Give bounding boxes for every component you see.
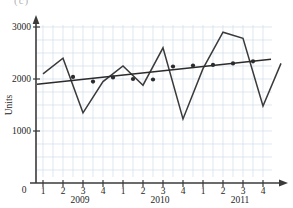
quarter-tick-label: 4 xyxy=(261,186,266,196)
quarter-tick-label: 1 xyxy=(41,186,46,196)
y-tick-label-2000: 2000 xyxy=(12,74,31,84)
quarter-tick-label: 1 xyxy=(201,186,206,196)
quarter-tick-label: 2 xyxy=(61,186,66,196)
scatter-dot xyxy=(91,80,95,84)
quarter-tick-label: 4 xyxy=(101,186,106,196)
y-tick-label-3000: 3000 xyxy=(12,22,31,32)
scatter-dot xyxy=(191,63,195,67)
scatter-dot xyxy=(151,77,155,81)
series-line-units xyxy=(43,32,281,119)
scatter-dot xyxy=(71,75,75,79)
quarter-tick-label: 2 xyxy=(221,186,226,196)
y-tick-label-1000: 1000 xyxy=(12,126,31,136)
quarter-tick-label: 2 xyxy=(141,186,146,196)
origin-label: 0 xyxy=(22,185,27,195)
year-label-2011: 2011 xyxy=(231,195,250,205)
units-quarterly-line-chart: Units 3000 2000 1000 0 123412341234 2009… xyxy=(0,0,293,208)
scatter-dot xyxy=(171,64,175,68)
quarter-tick-label: 1 xyxy=(121,186,126,196)
scatter-dot xyxy=(251,59,255,63)
y-axis-title: Units xyxy=(4,94,14,115)
gridlines xyxy=(36,25,272,177)
axis-lines xyxy=(30,15,288,186)
scatter-dot xyxy=(111,75,115,79)
scatter-dot xyxy=(231,61,235,65)
scatter-dot xyxy=(131,77,135,81)
year-label-2009: 2009 xyxy=(71,195,90,205)
chart-container: (c) Units 3000 2000 1000 0 123412341234 … xyxy=(0,0,293,208)
year-label-2010: 2010 xyxy=(151,195,170,205)
quarter-tick-label: 4 xyxy=(181,186,186,196)
scatter-dot xyxy=(211,63,215,67)
